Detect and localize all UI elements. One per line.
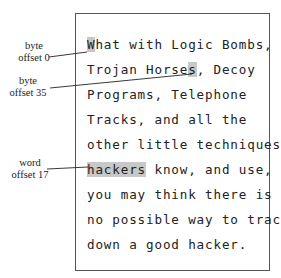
leader-byte-35 [50, 74, 192, 88]
leader-byte-0 [49, 52, 87, 57]
leader-lines [0, 0, 281, 278]
leader-word-17 [47, 167, 88, 169]
